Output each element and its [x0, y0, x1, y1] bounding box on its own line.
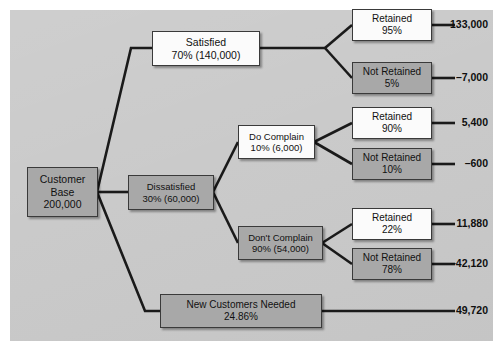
link-dissat-dontcomplain [213, 192, 238, 243]
link-dontcomplain-notretained [322, 243, 352, 264]
customer-base-line2: Base [51, 186, 75, 198]
new-customers-label: New Customers Needed [187, 299, 296, 311]
dissatisfied-label: Dissatisfied [147, 181, 196, 192]
link-docomplain-notretained [314, 142, 352, 164]
value-outcome-1: –7,000 [398, 71, 488, 83]
value-new-customers: 49,720 [398, 304, 488, 316]
do-complain-label: Do Complain [249, 131, 304, 142]
link-satisfied-retained [325, 25, 352, 48]
link-satisfied-notretained [325, 48, 352, 78]
node-customer-base[interactable]: Customer Base 200,000 [27, 167, 98, 217]
node-dont-complain[interactable]: Don't Complain 90% (54,000) [238, 226, 323, 260]
customer-base-line3: 200,000 [44, 198, 82, 210]
diagram-canvas: Customer Base 200,000 Satisfied 70% (140… [0, 0, 501, 349]
link-dontcomplain-retained [322, 224, 352, 243]
customer-base-line1: Customer [40, 173, 86, 185]
dissatisfied-stats: 30% (60,000) [142, 193, 199, 204]
value-outcome-3: –600 [398, 157, 488, 169]
value-outcome-0: 133,000 [398, 18, 488, 30]
link-docomplain-retained [314, 123, 352, 142]
dont-complain-stats: 90% (54,000) [252, 243, 309, 254]
satisfied-label: Satisfied [186, 36, 226, 48]
do-complain-stats: 10% (6,000) [251, 142, 303, 153]
link-root-satisfied [97, 48, 152, 192]
value-outcome-2: 5,400 [398, 116, 488, 128]
node-new-customers-needed[interactable]: New Customers Needed 24.86% [160, 294, 322, 328]
new-customers-stats: 24.86% [224, 311, 258, 323]
value-outcome-5: –42,120 [398, 257, 488, 269]
dont-complain-label: Don't Complain [248, 232, 313, 243]
node-do-complain[interactable]: Do Complain 10% (6,000) [238, 125, 315, 159]
link-dissat-docomplain [213, 142, 238, 192]
node-satisfied[interactable]: Satisfied 70% (140,000) [152, 31, 260, 66]
node-dissatisfied[interactable]: Dissatisfied 30% (60,000) [128, 175, 214, 210]
value-outcome-4: 11,880 [398, 217, 488, 229]
satisfied-stats: 70% (140,000) [172, 49, 241, 61]
